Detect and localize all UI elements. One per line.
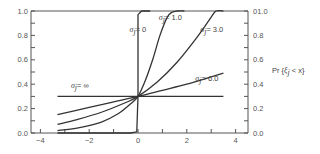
left-y-tick-label: 0.8 [18, 31, 28, 40]
x-tick-label: 4 [234, 136, 238, 145]
curve-label: σj= 1.0 [159, 13, 182, 24]
left-y-tick-label: 0.6 [18, 55, 28, 64]
x-tick-label: 2 [185, 136, 189, 145]
right-y-tick-label: 0.4 [253, 80, 263, 89]
right-y-tick-label: 0.8 [253, 31, 263, 40]
right-axis-title: Pr {ξj < x} [272, 66, 305, 77]
curve-label: σj= 6.0 [195, 74, 218, 85]
cumulative-probability-chart: 0.00.00.20.20.40.40.60.60.80.81.001.0−4−… [0, 0, 320, 154]
curve-label: σj= ∞ [71, 81, 89, 92]
right-axis-title-text: Pr {ξj < x} [272, 66, 305, 77]
right-y-tick-label: 01.0 [253, 7, 268, 16]
curve-j1-0 [57, 11, 184, 131]
x-tick-label: −2 [85, 136, 94, 145]
left-y-tick-label: 0.0 [18, 129, 28, 138]
left-y-tick-label: 0.4 [18, 80, 28, 89]
right-y-tick-label: 0.6 [253, 55, 263, 64]
left-y-tick-label: 0.2 [18, 104, 28, 113]
x-tick-label: −4 [36, 136, 45, 145]
x-tick-label: 0 [136, 136, 140, 145]
curve-labels: σj= 0σj= 1.0σj= 3.0σj= 6.0σj= ∞ [71, 13, 223, 92]
right-y-tick-label: 0.0 [253, 129, 263, 138]
right-y-tick-label: 0.2 [253, 104, 263, 113]
left-y-tick-label: 1.0 [18, 7, 28, 16]
curve-label: σj= 3.0 [200, 25, 223, 36]
